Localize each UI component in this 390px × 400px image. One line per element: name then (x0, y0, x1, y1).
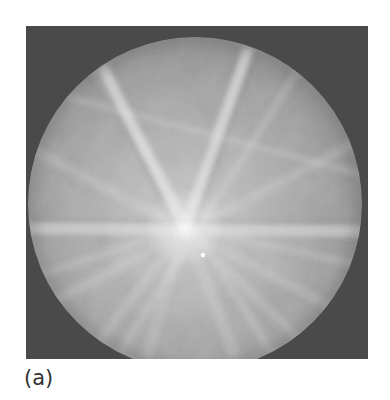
diffraction-pattern-graphic (26, 26, 368, 359)
kikuchi-pattern-image (26, 26, 368, 359)
bright-spot (201, 253, 205, 257)
panel-label: (a) (24, 364, 53, 392)
